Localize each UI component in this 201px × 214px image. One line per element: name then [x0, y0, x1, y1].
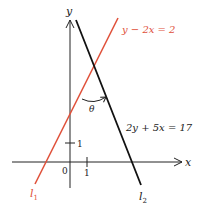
- y-tick-label: 1: [77, 139, 83, 149]
- angle-arc: [82, 97, 106, 102]
- y-axis-label: y: [65, 5, 73, 18]
- l2-label: l2: [139, 190, 147, 205]
- l1-label: l1: [30, 187, 38, 202]
- line-l2: [76, 20, 141, 185]
- l2-equation: 2y + 5x = 17: [125, 122, 193, 133]
- angle-theta-label: θ: [89, 104, 95, 114]
- origin-label: 0: [62, 166, 68, 176]
- line-l1: [35, 18, 118, 184]
- l1-equation: y − 2x = 2: [121, 24, 176, 35]
- x-tick-label: 1: [84, 168, 90, 178]
- x-axis-label: x: [185, 156, 192, 169]
- line-intersection-diagram: x y 0 1 1 y − 2x = 2 2y + 5x = 17 l1 l2 …: [0, 0, 201, 214]
